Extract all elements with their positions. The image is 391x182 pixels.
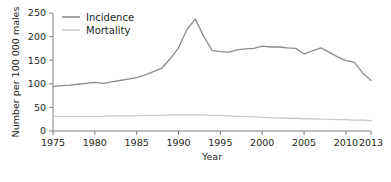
chart-legend: IncidenceMortality (62, 12, 134, 36)
legend-label-incidence: Incidence (86, 12, 134, 23)
x-axis-tick-labels: 197519801985199019952000200520102013 (41, 137, 383, 148)
y-tick-label-250: 250 (28, 7, 46, 18)
x-tick-label-1975: 1975 (41, 137, 65, 148)
line-chart: 050100150200250 Number per 100 000 males… (0, 0, 391, 182)
y-tick-label-100: 100 (28, 78, 46, 89)
x-tick-label-2005: 2005 (292, 137, 316, 148)
y-tick-label-0: 0 (40, 125, 46, 136)
y-tick-label-200: 200 (28, 31, 46, 42)
y-axis-ticks (49, 13, 53, 131)
x-axis-ticks (53, 131, 371, 135)
x-axis: 197519801985199019952000200520102013 Yea… (41, 131, 383, 162)
chart-container: 050100150200250 Number per 100 000 males… (0, 0, 391, 182)
x-tick-label-2013: 2013 (359, 137, 383, 148)
y-tick-label-150: 150 (28, 55, 46, 66)
x-tick-label-1980: 1980 (83, 137, 107, 148)
x-axis-title: Year (201, 151, 222, 162)
x-tick-label-2000: 2000 (250, 137, 274, 148)
x-tick-label-1995: 1995 (208, 137, 232, 148)
y-axis-tick-labels: 050100150200250 (28, 7, 46, 136)
x-tick-label-2010: 2010 (334, 137, 358, 148)
x-tick-label-1990: 1990 (166, 137, 190, 148)
y-axis-title: Number per 100 000 males (10, 7, 21, 138)
y-axis: 050100150200250 Number per 100 000 males (10, 7, 53, 138)
y-tick-label-50: 50 (34, 102, 46, 113)
legend-label-mortality: Mortality (86, 25, 130, 36)
x-tick-label-1985: 1985 (125, 137, 149, 148)
series-line-mortality (53, 115, 371, 121)
